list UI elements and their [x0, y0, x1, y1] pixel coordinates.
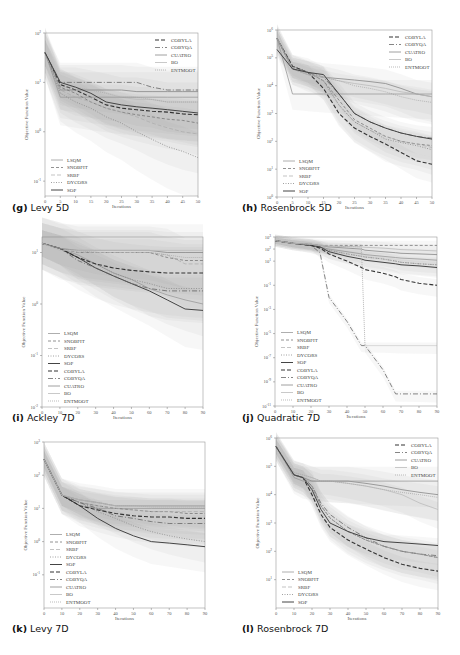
- y-axis-label: Objective Function Value: [21, 296, 26, 348]
- y-tick-label: 104: [266, 491, 273, 497]
- y-tick-label: 105: [267, 54, 274, 60]
- legend-label: CUATRO: [405, 50, 425, 55]
- legend-label: LSQM: [299, 159, 313, 164]
- x-tick-label: 10: [292, 611, 297, 616]
- caption: (j) Quadratic 7D: [242, 412, 320, 423]
- x-axis-label: Iterations: [348, 616, 367, 621]
- legend-label: LSQM: [297, 330, 311, 335]
- x-tick-label: 40: [165, 199, 170, 204]
- y-tick-label: 100: [267, 194, 274, 200]
- legend-label: BO: [405, 57, 412, 62]
- x-tick-label: 20: [337, 200, 342, 205]
- legend-label: BO: [66, 592, 73, 597]
- legend-label: CUATRO: [66, 585, 86, 590]
- y-tick-label: 102: [267, 138, 274, 144]
- y-tick-label: 100: [34, 538, 41, 544]
- legend-label: SNOBFIT: [64, 339, 85, 344]
- y-tick-label: 10-9: [264, 378, 272, 384]
- y-tick-label: 101: [34, 505, 41, 511]
- legend-label: CUATRO: [171, 53, 191, 58]
- x-tick-label: 30: [135, 199, 140, 204]
- x-tick-label: 90: [435, 409, 440, 414]
- x-tick-label: 80: [418, 611, 423, 616]
- x-axis-label: Iterations: [112, 204, 131, 209]
- y-tick-label: 103: [34, 439, 41, 445]
- legend-label: COBYLA: [405, 35, 426, 40]
- panel-rosenbrock-7d: 0102030405060708090Iterations10610510410…: [230, 430, 460, 645]
- y-tick-label: 10-1: [31, 352, 39, 358]
- legend-label: LSQM: [64, 331, 78, 336]
- x-tick-label: 60: [149, 611, 154, 616]
- x-tick-label: 50: [430, 200, 435, 205]
- legend-label: COBYQA: [171, 45, 193, 50]
- y-axis-label: Objective Function Value: [254, 295, 259, 347]
- legend-label: SRBF: [298, 585, 310, 590]
- y-tick-label: 101: [35, 79, 42, 85]
- legend-label: COBYQA: [411, 450, 433, 455]
- x-tick-label: 70: [165, 410, 170, 415]
- x-tick-label: 45: [414, 200, 419, 205]
- legend-label: SNOBFIT: [66, 540, 87, 545]
- legend-label: LSQM: [67, 158, 81, 163]
- x-tick-label: 60: [147, 410, 152, 415]
- legend-label: ENTMOOT: [411, 473, 435, 478]
- x-tick-label: 90: [201, 410, 206, 415]
- legend-label: COBYQA: [66, 577, 88, 582]
- legend-label: DYCORS: [297, 353, 318, 358]
- y-tick-label: 104: [267, 82, 274, 88]
- legend-label: SRBF: [297, 345, 309, 350]
- y-axis-label: Objective Function Value: [255, 497, 260, 549]
- y-tick-label: 101: [267, 166, 274, 172]
- legend-label: SOP: [67, 188, 76, 193]
- x-tick-label: 50: [196, 199, 201, 204]
- x-tick-label: 30: [368, 200, 373, 205]
- y-tick-label: 106: [267, 27, 274, 33]
- y-tick-label: 10-1: [264, 282, 272, 288]
- x-tick-label: 90: [203, 611, 208, 616]
- panel-ackley-7d: 0102030405060708090Iterations10110010-11…: [0, 215, 230, 430]
- legend-label: DYCORS: [64, 354, 85, 359]
- y-tick-label: 10-7: [264, 354, 272, 360]
- legend-label: BO: [411, 465, 418, 470]
- legend-label: SNOBFIT: [299, 166, 320, 171]
- x-axis-label: Iterations: [345, 205, 364, 210]
- y-tick-label: 100: [32, 301, 39, 307]
- y-tick-label: 100: [35, 128, 42, 134]
- y-axis-label: Objective Function Value: [23, 499, 28, 551]
- y-tick-label: 10-5: [264, 330, 272, 336]
- legend-label: COBYQA: [405, 42, 427, 47]
- x-tick-label: 80: [183, 410, 188, 415]
- y-tick-label: 103: [265, 234, 272, 240]
- caption: (l) Rosenbrock 7D: [242, 623, 328, 634]
- x-tick-label: 0: [43, 611, 46, 616]
- y-tick-label: 101: [266, 576, 273, 582]
- panel-quadratic-7d: 0102030405060708090Iterations10310210110…: [230, 215, 460, 430]
- y-tick-label: 102: [266, 548, 273, 554]
- y-tick-label: 10-1: [33, 571, 41, 577]
- panel-levy-5d: 05101520253035404550Iterations1021011001…: [0, 0, 230, 215]
- caption: (i) Ackley 7D: [12, 412, 75, 423]
- legend-label: SRBF: [64, 346, 76, 351]
- legend-label: ENTMOOT: [405, 65, 429, 70]
- y-tick-label: 10-11: [262, 403, 271, 409]
- x-axis-label: Iterations: [113, 415, 132, 420]
- legend-label: COBYQA: [64, 376, 86, 381]
- y-axis-label: Objective Function Value: [24, 88, 29, 140]
- legend-label: LSQM: [298, 570, 312, 575]
- x-tick-label: 30: [93, 410, 98, 415]
- caption: (h) Rosenbrock 5D: [242, 202, 332, 213]
- legend-label: SRBF: [299, 174, 311, 179]
- x-tick-label: 70: [400, 611, 405, 616]
- legend-label: DYCORS: [299, 181, 320, 186]
- x-axis-label: Iterations: [347, 414, 366, 419]
- y-tick-label: 10-1: [34, 178, 42, 184]
- x-tick-label: 20: [104, 199, 109, 204]
- panel-levy-7d: 0102030405060708090Iterations10310210110…: [0, 430, 230, 645]
- legend-label: COBYLA: [66, 570, 87, 575]
- y-tick-label: 10-3: [264, 306, 272, 312]
- caption: (g) Levy 5D: [12, 202, 69, 213]
- y-tick-label: 103: [266, 520, 273, 526]
- x-tick-label: 80: [185, 611, 190, 616]
- legend-label: SRBF: [67, 173, 79, 178]
- x-tick-label: 30: [327, 409, 332, 414]
